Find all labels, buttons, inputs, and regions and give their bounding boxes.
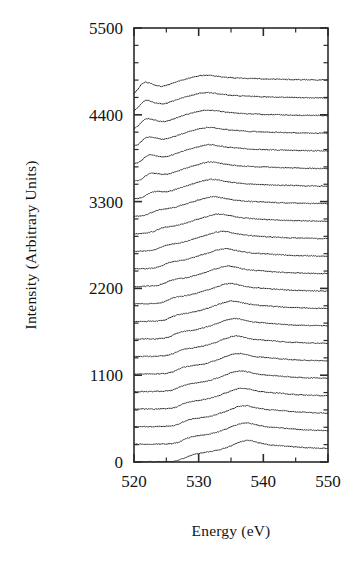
spectrum-trace <box>134 371 328 392</box>
spectrum-trace <box>134 179 328 199</box>
x-tick-labels: 520530540550 <box>121 472 341 491</box>
spectrum-trace <box>134 249 328 270</box>
spectrum-trace <box>134 144 328 163</box>
x-tick-label: 530 <box>186 472 212 491</box>
spectrum-trace <box>134 423 328 445</box>
spectra-chart: 520530540550 011002200330044005500 Energ… <box>0 0 356 567</box>
spectrum-trace <box>134 75 328 94</box>
x-tick-label: 550 <box>315 472 341 491</box>
spectra-traces-group <box>134 75 328 462</box>
y-tick-label: 3300 <box>89 193 123 212</box>
spectrum-trace <box>134 231 328 252</box>
y-tick-label: 2200 <box>89 279 123 298</box>
y-tick-label: 1100 <box>90 366 123 385</box>
figure-root: 520530540550 011002200330044005500 Energ… <box>0 0 356 567</box>
y-tick-label: 0 <box>115 453 124 472</box>
y-tick-label: 4400 <box>89 106 123 125</box>
spectrum-trace <box>134 110 328 128</box>
spectrum-trace <box>134 92 328 111</box>
x-tick-label: 540 <box>251 472 277 491</box>
spectrum-trace <box>134 127 328 146</box>
plot-frame <box>134 28 328 462</box>
y-tick-label: 5500 <box>89 19 123 38</box>
spectrum-trace <box>134 162 328 182</box>
y-axis-title: Intensity (Arbitrary Units) <box>22 161 40 330</box>
spectrum-trace <box>134 196 328 216</box>
x-tick-label: 520 <box>121 472 147 491</box>
x-axis-title: Energy (eV) <box>192 522 271 540</box>
axis-ticks-group <box>134 28 328 462</box>
y-tick-labels: 011002200330044005500 <box>89 19 123 472</box>
spectrum-trace <box>134 214 328 234</box>
